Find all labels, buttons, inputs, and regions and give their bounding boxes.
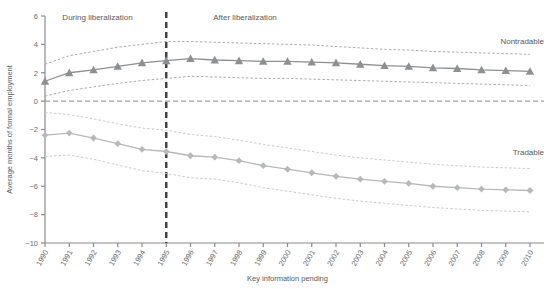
y-tick-label: −6 (29, 182, 38, 191)
annotation-during-liberalization: During liberalization (62, 13, 132, 22)
series-label-nontradable: Nontradable (500, 37, 544, 46)
chart-background (0, 0, 547, 289)
series-label-tradable: Tradable (513, 148, 545, 157)
y-tick-label: −8 (29, 210, 38, 219)
employment-line-chart: 6420−2−4−6−8−101990199119921993199419951… (0, 0, 547, 289)
y-tick-label: −10 (25, 239, 38, 248)
chart-container: 6420−2−4−6−8−101990199119921993199419951… (0, 0, 547, 289)
annotation-after-liberalization: After liberalization (213, 13, 277, 22)
y-tick-label: 2 (34, 69, 38, 78)
y-tick-label: 4 (34, 40, 38, 49)
y-tick-label: −2 (29, 125, 38, 134)
x-axis-title: Key information pending (247, 274, 328, 283)
y-tick-label: 0 (34, 97, 38, 106)
y-tick-label: −4 (29, 154, 38, 163)
y-tick-label: 6 (34, 12, 38, 21)
y-axis-title: Average months of formal employment (5, 64, 14, 194)
